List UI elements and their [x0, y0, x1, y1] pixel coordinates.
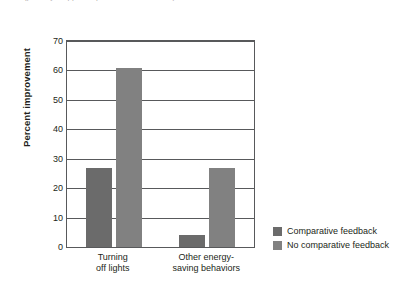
- y-axis-tick-label: 20: [53, 183, 63, 193]
- y-axis-tick-label: 30: [53, 154, 63, 164]
- y-axis-tick-label: 50: [53, 95, 63, 105]
- x-axis-category-label: Other energy- saving behaviors: [151, 252, 261, 274]
- y-axis-tick-label: 70: [53, 36, 63, 46]
- legend-swatch-icon: [273, 227, 282, 236]
- gridline: [67, 100, 254, 101]
- plot-area: 010203040506070: [66, 40, 255, 248]
- gridline: [67, 129, 254, 130]
- bar: [209, 168, 235, 247]
- gridline: [67, 70, 254, 71]
- gridline: [67, 41, 254, 42]
- legend: Comparative feedbackNo comparative feedb…: [273, 226, 389, 254]
- bar: [86, 168, 112, 247]
- bar: [179, 235, 205, 247]
- y-axis-tick-label: 40: [53, 124, 63, 134]
- y-axis-label: Percent improvement: [21, 28, 32, 168]
- legend-item: No comparative feedback: [273, 240, 389, 250]
- legend-label: No comparative feedback: [287, 240, 389, 250]
- bar: [116, 68, 142, 248]
- bar-chart: Percent improvement 010203040506070 Turn…: [0, 0, 407, 286]
- y-axis-tick-label: 0: [58, 242, 63, 252]
- legend-label: Comparative feedback: [287, 226, 377, 236]
- gridline: [67, 159, 254, 160]
- y-axis-tick-label: 60: [53, 65, 63, 75]
- legend-swatch-icon: [273, 241, 282, 250]
- y-axis-tick-label: 10: [53, 213, 63, 223]
- legend-item: Comparative feedback: [273, 226, 389, 236]
